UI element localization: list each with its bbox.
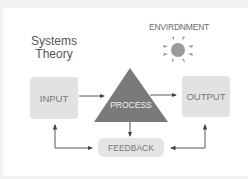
output-label: OUTPUT xyxy=(186,91,225,102)
input-label: INPUT xyxy=(40,93,69,104)
diagram-title: Systems Theory xyxy=(27,35,81,61)
feedback-label: FEEDBACK xyxy=(108,143,154,153)
output-node: OUTPUT xyxy=(182,76,230,117)
title-line-2: Theory xyxy=(27,48,81,61)
input-node: INPUT xyxy=(30,77,78,119)
feedback-node: FEEDBACK xyxy=(98,138,164,157)
process-label: PROCESS xyxy=(98,100,164,110)
sun-icon xyxy=(163,36,193,63)
environment-label: ENVIRDNMENT xyxy=(144,22,214,32)
